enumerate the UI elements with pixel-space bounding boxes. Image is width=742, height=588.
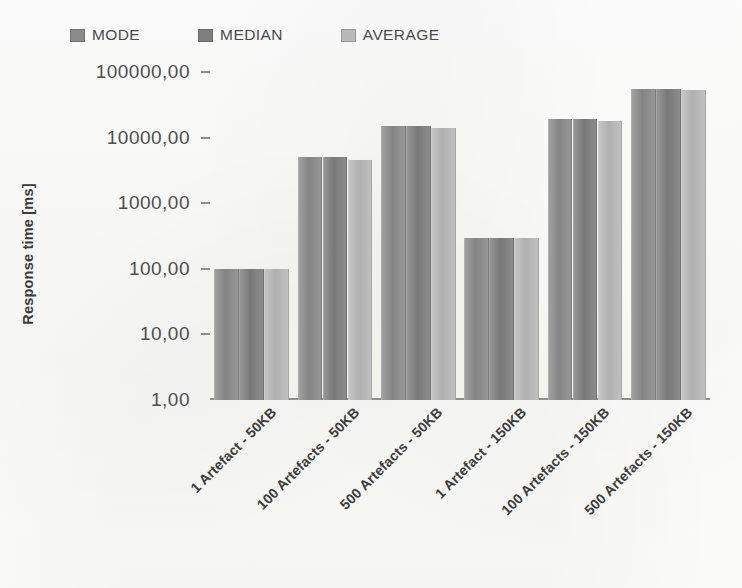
y-axis-tick-label: 10000,00 [107,127,190,149]
legend-label-median: MEDIAN [220,26,283,44]
bar-average[interactable] [348,160,373,400]
bar-chart: MODE MEDIAN AVERAGE Response time [ms] 1… [0,0,742,588]
bar-median[interactable] [406,126,431,400]
bar-group [381,72,456,400]
bar-average[interactable] [681,90,706,400]
bar-group [548,72,623,400]
bar-group [214,72,289,400]
legend-item-average[interactable]: AVERAGE [341,26,440,44]
bar-mode[interactable] [381,126,406,400]
y-axis-tick [201,71,210,73]
legend-swatch-average [341,29,356,42]
bar-mode[interactable] [214,269,239,400]
y-axis-tick-label: 100,00 [129,258,190,280]
x-axis-tick-label: 1 Artefact - 150KB [431,404,529,502]
bar-group [298,72,373,400]
bar-average[interactable] [514,238,539,400]
bar-mode[interactable] [548,119,573,400]
bar-mode[interactable] [298,157,323,400]
bar-median[interactable] [239,269,264,400]
bar-group [631,72,706,400]
y-axis-tick [201,268,210,270]
bar-mode[interactable] [631,89,656,400]
bar-median[interactable] [573,119,598,400]
bar-median[interactable] [489,238,514,400]
y-axis-tick-label: 100000,00 [96,61,190,83]
bar-average[interactable] [598,121,623,400]
legend-swatch-median [198,29,213,42]
y-axis-tick-label: 1,00 [151,389,190,411]
x-axis-tick-label: 1 Artefact - 50KB [187,404,279,496]
y-axis-tick-label: 10,00 [140,323,190,345]
legend-label-average: AVERAGE [363,26,440,44]
y-axis-labels: 100000,0010000,001000,00100,0010,001,00 [0,72,202,400]
y-axis-tick-label: 1000,00 [118,192,190,214]
y-axis-tick [201,333,210,335]
bar-average[interactable] [431,128,456,400]
bar-median[interactable] [656,89,681,400]
bar-mode[interactable] [464,238,489,400]
legend-swatch-mode [70,29,85,42]
bar-group [464,72,539,400]
x-axis-labels: 1 Artefact - 50KB100 Artefacts - 50KB500… [210,404,710,554]
y-axis-tick [201,202,210,204]
bar-average[interactable] [264,269,289,400]
plot-area [210,72,710,400]
bar-median[interactable] [323,157,348,400]
chart-legend: MODE MEDIAN AVERAGE [70,26,439,44]
legend-item-mode[interactable]: MODE [70,26,140,44]
y-axis-tick [201,137,210,139]
legend-item-median[interactable]: MEDIAN [198,26,283,44]
legend-label-mode: MODE [92,26,140,44]
